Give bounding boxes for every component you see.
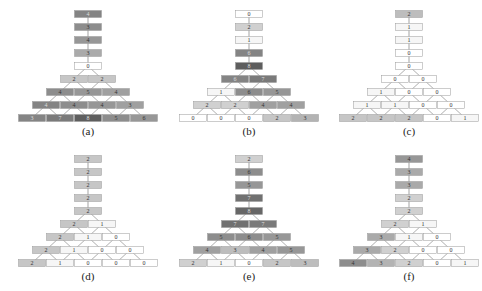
tree-node: 2 (180, 260, 207, 267)
node-value: 5 (220, 234, 223, 240)
tree-node: 4 (396, 156, 423, 163)
node-value: 0 (450, 247, 453, 253)
tree-node: 2 (396, 208, 423, 215)
tree-node: 0 (75, 260, 102, 267)
node-value: 3 (129, 102, 132, 108)
node-value: 8 (248, 63, 251, 69)
node-value: 1 (464, 115, 467, 121)
tree-node: 4 (103, 89, 130, 96)
tree-node: 3 (292, 115, 319, 122)
tree-node: 1 (208, 260, 235, 267)
node-value: 1 (220, 260, 223, 266)
tree-node: 0 (410, 76, 437, 83)
node-value: 0 (115, 234, 118, 240)
node-value: 7 (234, 221, 237, 227)
node-value: 6 (248, 234, 251, 240)
tree-node: 2 (47, 234, 74, 241)
tree-node: 6 (236, 169, 263, 176)
tree-node: 1 (89, 221, 116, 228)
node-value: 1 (248, 37, 251, 43)
node-value: 0 (115, 260, 118, 266)
node-value: 2 (73, 76, 76, 82)
tree-node: 2 (75, 182, 102, 189)
node-value: 4 (290, 102, 293, 108)
node-value: 2 (234, 102, 237, 108)
node-value: 2 (394, 247, 397, 253)
node-value: 5 (115, 115, 118, 121)
node-value: 4 (45, 102, 48, 108)
node-value: 3 (380, 260, 383, 266)
node-value: 2 (408, 11, 411, 17)
panel-caption: (b) (169, 125, 329, 137)
tree-node: 2 (396, 195, 423, 202)
node-value: 0 (143, 260, 146, 266)
tree-node: 2 (368, 115, 395, 122)
tree-node: 5 (278, 247, 305, 254)
node-value: 1 (220, 89, 223, 95)
tree-node: 3 (19, 115, 46, 122)
tree-node: 0 (236, 115, 263, 122)
tree-node: 4 (89, 102, 116, 109)
node-value: 0 (248, 260, 251, 266)
tree-node: 4 (250, 102, 277, 109)
tree-node: 1 (354, 102, 381, 109)
node-value: 6 (248, 50, 251, 56)
tree-node: 2 (340, 115, 367, 122)
node-value: 4 (87, 37, 90, 43)
tree-node: 4 (194, 247, 221, 254)
node-value: 3 (408, 182, 411, 188)
tree-node: 2 (194, 102, 221, 109)
tree-node: 2 (396, 115, 423, 122)
tree-node: 0 (438, 247, 465, 254)
tree-node: 5 (208, 234, 235, 241)
tree-node: 2 (61, 76, 88, 83)
tree-node: 4 (61, 102, 88, 109)
node-value: 4 (101, 102, 104, 108)
node-value: 7 (262, 76, 265, 82)
tree-node: 6 (131, 115, 158, 122)
tree-node: 7 (236, 195, 263, 202)
tree-node: 0 (396, 50, 423, 57)
tree-node: 2 (236, 24, 263, 31)
node-value: 5 (248, 182, 251, 188)
node-value: 1 (408, 24, 411, 30)
node-value: 2 (276, 115, 279, 121)
tree-node: 5 (75, 89, 102, 96)
node-value: 0 (422, 102, 425, 108)
tree-node: 2 (382, 247, 409, 254)
tree-node: 1 (410, 221, 437, 228)
tree-node: 2 (19, 260, 46, 267)
node-value: 0 (408, 89, 411, 95)
panel-caption: (f) (329, 270, 482, 282)
node-value: 1 (408, 37, 411, 43)
tree-node: 2 (75, 208, 102, 215)
node-value: 0 (394, 76, 397, 82)
node-value: 5 (290, 247, 293, 253)
tree-node: 5 (103, 115, 130, 122)
tree-node: 0 (117, 247, 144, 254)
node-value: 0 (422, 247, 425, 253)
tree-node: 4 (33, 102, 60, 109)
node-value: 0 (220, 115, 223, 121)
tree-node: 1 (382, 102, 409, 109)
node-value: 3 (304, 115, 307, 121)
panel-caption: (c) (329, 125, 482, 137)
node-value: 8 (87, 115, 90, 121)
tree-node: 1 (452, 115, 479, 122)
node-value: 4 (87, 11, 90, 17)
panel-a: 4343022454444337856(a) (0, 0, 160, 145)
node-value: 1 (73, 247, 76, 253)
tree-node: 7 (250, 76, 277, 83)
tree-node: 3 (75, 50, 102, 57)
node-value: 7 (248, 195, 251, 201)
tree-node: 2 (61, 221, 88, 228)
node-value: 1 (101, 221, 104, 227)
node-value: 3 (304, 260, 307, 266)
node-value: 1 (380, 89, 383, 95)
tree-node: 2 (264, 115, 291, 122)
tree-node: 1 (396, 37, 423, 44)
node-value: 4 (115, 89, 118, 95)
node-value: 2 (408, 115, 411, 121)
tree-node: 1 (208, 89, 235, 96)
node-value: 0 (436, 115, 439, 121)
